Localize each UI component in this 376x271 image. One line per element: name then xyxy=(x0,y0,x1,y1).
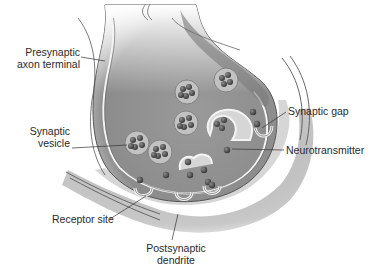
vesicle xyxy=(174,111,198,135)
label-line: axon terminal xyxy=(10,58,80,70)
label-synaptic-gap: Synaptic gap xyxy=(288,105,349,117)
label-line: Presynaptic xyxy=(10,46,80,58)
label-presynaptic-axon-terminal: Presynaptic axon terminal xyxy=(10,46,80,70)
label-receptor-site: Receptor site xyxy=(52,213,114,225)
label-line: Postsynaptic xyxy=(138,242,214,254)
label-synaptic-vesicle: Synaptic vesicle xyxy=(10,125,70,149)
vesicle xyxy=(214,68,238,92)
label-neurotransmitter: Neurotransmitter xyxy=(286,144,364,156)
label-line: Synaptic xyxy=(10,125,70,137)
vesicle xyxy=(175,80,199,104)
label-line: vesicle xyxy=(10,137,70,149)
label-postsynaptic-dendrite: Postsynaptic dendrite xyxy=(138,242,214,266)
vesicle xyxy=(125,131,149,155)
vesicle xyxy=(148,140,172,164)
label-line: dendrite xyxy=(138,254,214,266)
